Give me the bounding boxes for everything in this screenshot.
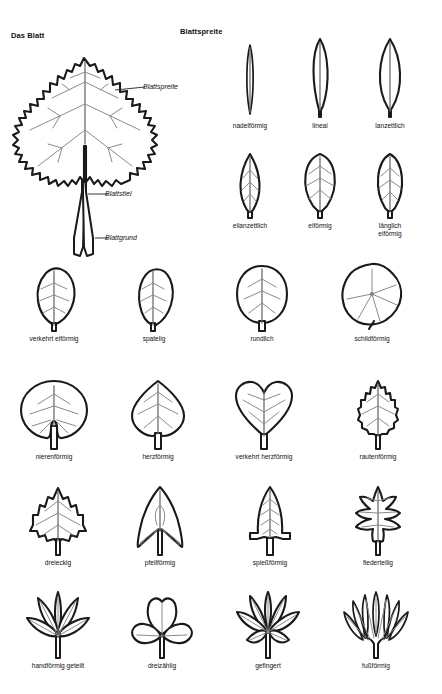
shape-cell-verkehrt-herzfoermig: verkehrt herzförmig [216,378,312,461]
shape-cell-handfoermig-geteilt: handförmig geteilt [10,590,106,670]
shape-label-dreieckig: dreieckig [10,559,106,567]
main-leaf-svg [0,42,185,262]
annotation-blattgrund: Blattgrund [105,234,137,241]
leaf-art-rautenfoermig [330,378,426,451]
heading-das-blatt: Das Blatt [11,31,44,40]
leaf-art-verkehrt-herzfoermig [216,378,312,451]
shape-label-fussfoermig: fußförmig [328,662,424,670]
shape-cell-dreieckig: dreieckig [10,485,106,567]
heading-blattspreite: Blattspreite [180,27,222,36]
leaf-art-laenglich-eifoermig [342,152,438,220]
leaf-art-dreieckig [10,485,106,557]
shape-label-spatelig: spatelig [106,335,202,343]
shape-label-laenglich-eifoermig: länglich eiförmig [342,222,438,238]
shape-label-verkehrt-eifoermig: verkehrt eiförmig [6,335,102,343]
leaf-art-herzfoermig [110,378,206,451]
leaf-art-schildfoermig [324,261,420,333]
shape-label-schildfoermig: schildförmig [324,335,420,343]
annotation-blattspreite: Blattspreite [143,83,178,90]
shape-cell-rautenfoermig: rautenförmig [330,378,426,461]
leaf-art-fiederteilig [330,485,426,557]
leaf-art-handfoermig-geteilt [10,590,106,660]
shape-label-fiederteilig: fiederteilig [330,559,426,567]
shape-cell-pfeilfoermig: pfeilförmig [112,485,208,567]
shape-label-gefingert: gefingert [220,662,316,670]
shape-label-rautenfoermig: rautenförmig [330,453,426,461]
leaf-art-verkehrt-eifoermig [6,263,102,333]
leaf-shapes-poster: Das Blatt Blattspreite [0,0,442,694]
leaf-art-nierenfoermig [6,378,102,451]
shape-cell-herzfoermig: herzförmig [110,378,206,461]
annotation-blattstiel: Blattstiel [105,190,131,197]
shape-label-verkehrt-herzfoermig: verkehrt herzförmig [216,453,312,461]
shape-cell-dreizaehlig: dreizählig [114,590,210,670]
leaf-art-spiessfoermig [222,485,318,557]
shape-cell-fussfoermig: fußförmig [328,590,424,670]
shape-cell-spiessfoermig: spießförmig [222,485,318,567]
shape-label-spiessfoermig: spießförmig [222,559,318,567]
main-leaf-diagram [0,42,185,262]
shape-cell-spatelig: spatelig [106,263,202,343]
shape-cell-lanzettlich: lanzettlich [342,36,438,130]
shape-cell-laenglich-eifoermig: länglich eiförmig [342,152,438,238]
shape-cell-schildfoermig: schildförmig [324,261,420,343]
leaf-art-spatelig [106,263,202,333]
shape-label-herzfoermig: herzförmig [110,453,206,461]
shape-cell-nierenfoermig: nierenförmig [6,378,102,461]
shape-cell-fiederteilig: fiederteilig [330,485,426,567]
shape-label-pfeilfoermig: pfeilförmig [112,559,208,567]
shape-label-nierenfoermig: nierenförmig [6,453,102,461]
leaf-art-lanzettlich [342,36,438,120]
leaf-art-pfeilfoermig [112,485,208,557]
shape-cell-rundlich: rundlich [214,263,310,343]
leaf-art-gefingert [220,590,316,660]
shape-cell-verkehrt-eifoermig: verkehrt eiförmig [6,263,102,343]
shape-label-handfoermig-geteilt: handförmig geteilt [10,662,106,670]
leaf-art-fussfoermig [328,590,424,660]
shape-label-lanzettlich: lanzettlich [342,122,438,130]
leaf-art-dreizaehlig [114,590,210,660]
leaf-art-rundlich [214,263,310,333]
shape-label-rundlich: rundlich [214,335,310,343]
shape-cell-gefingert: gefingert [220,590,316,670]
shape-label-dreizaehlig: dreizählig [114,662,210,670]
